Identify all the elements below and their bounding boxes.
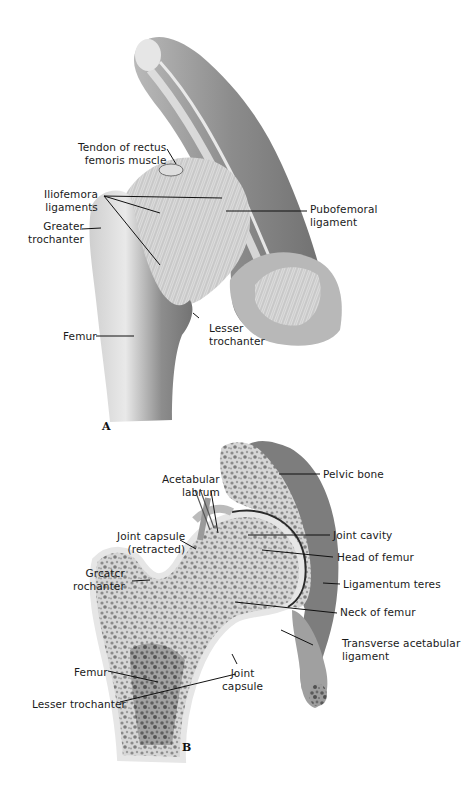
label-joint-cavity: Joint cavity xyxy=(333,529,392,542)
label-ligamentum-teres: Ligamentum teres xyxy=(343,578,441,591)
panel-a-illustration xyxy=(89,37,341,422)
label-tendon-rectus-femoris: Tendon of rectus femoris muscle xyxy=(78,141,166,166)
label-pelvic-bone: Pelvic bone xyxy=(323,468,384,481)
label-pubofemoral-ligament: Pubofemoral ligament xyxy=(310,203,377,228)
hip-joint-figure: Tendon of rectus femoris muscle Iliofemo… xyxy=(0,0,468,790)
label-acetabular-labrum: Acetabular labrum xyxy=(162,473,220,498)
label-transverse-acetabular-ligament: Transverse acetabular ligament xyxy=(342,637,460,662)
label-femur-b: Femur xyxy=(74,666,108,679)
panel-letter-b: B xyxy=(182,741,191,754)
label-lesser-trochanter-a: Lesser trochanter xyxy=(209,322,265,347)
label-head-of-femur: Head of femur xyxy=(337,551,414,564)
label-lesser-trochanter-b: Lesser trochanter xyxy=(32,698,126,711)
label-joint-capsule-retracted: Joint capsule (retracted) xyxy=(117,530,185,555)
label-joint-capsule: Joint capsule xyxy=(222,667,263,692)
label-greater-trochanter-a: Greater trochanter xyxy=(28,220,84,245)
label-greater-trochanter-b: Grcatcr rochanter xyxy=(73,567,125,592)
label-iliofemoral-ligaments: Iliofemora ligaments xyxy=(44,188,98,213)
label-femur-a: Femur xyxy=(63,330,97,343)
label-neck-of-femur: Neck of femur xyxy=(340,606,416,619)
panel-letter-a: A xyxy=(102,420,111,433)
